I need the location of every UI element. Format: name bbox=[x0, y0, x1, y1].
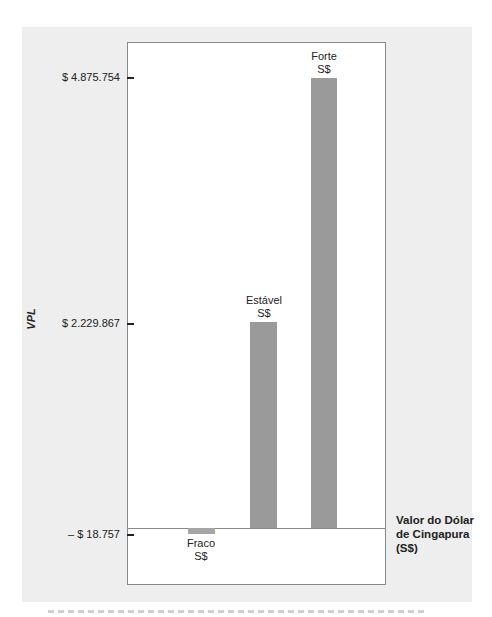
y-tick-label-mid: $ 2.229.867 bbox=[62, 317, 120, 329]
bar-fraco bbox=[188, 528, 215, 534]
bar-label-forte-line1: Forte bbox=[294, 50, 354, 63]
x-axis-label-line2: de Cingapura bbox=[396, 527, 486, 541]
y-tick-low bbox=[127, 534, 134, 536]
bar-label-fraco: Fraco S$ bbox=[171, 537, 231, 563]
y-tick-top bbox=[127, 77, 134, 79]
bar-label-fraco-line1: Fraco bbox=[171, 537, 231, 550]
figure-caption-faded bbox=[48, 610, 428, 613]
y-tick-mid bbox=[127, 323, 134, 325]
bar-label-forte: Forte S$ bbox=[294, 50, 354, 76]
bar-label-estavel: Estável S$ bbox=[234, 294, 294, 320]
bar-label-estavel-line1: Estável bbox=[234, 294, 294, 307]
y-axis-label: VPL bbox=[25, 308, 37, 329]
bar-forte bbox=[311, 78, 337, 528]
zero-axis-line bbox=[127, 528, 386, 529]
y-tick-label-top: $ 4.875.754 bbox=[62, 71, 120, 83]
x-axis-label-line3: (S$) bbox=[396, 541, 486, 555]
x-axis-label: Valor do Dólar de Cingapura (S$) bbox=[396, 513, 486, 555]
x-axis-label-line1: Valor do Dólar bbox=[396, 513, 486, 527]
bar-label-estavel-line2: S$ bbox=[234, 307, 294, 320]
bar-label-fraco-line2: S$ bbox=[171, 550, 231, 563]
bar-label-forte-line2: S$ bbox=[294, 63, 354, 76]
y-tick-label-low: – $ 18.757 bbox=[68, 528, 120, 540]
bar-estavel bbox=[250, 322, 277, 528]
